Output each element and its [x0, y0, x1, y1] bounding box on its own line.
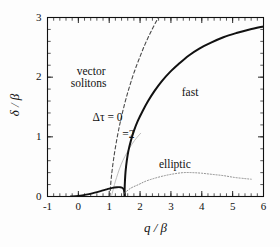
figure-container: -10123456 0123 q / β δ / β vector solito…	[0, 0, 280, 247]
y-axis-title: δ / β	[7, 94, 22, 117]
x-tick-label: 0	[64, 201, 92, 212]
x-axis-major-ticks	[48, 18, 264, 197]
annotation-solitons: solitons	[71, 78, 107, 90]
x-tick-label: 6	[250, 201, 278, 212]
y-axis-title-wrapper: δ / β	[5, 82, 23, 128]
annotation-vector: vector	[77, 66, 106, 78]
y-axis-major-ticks	[48, 18, 264, 197]
annotation-elliptic: elliptic	[159, 159, 191, 171]
y-tick-label: 2	[24, 71, 42, 82]
x-tick-label: 3	[157, 201, 185, 212]
x-tick-label: 1	[95, 201, 123, 212]
y-axis-minor-ticks	[48, 18, 264, 197]
y-tick-label: 1	[24, 131, 42, 142]
plot-frame	[48, 18, 264, 197]
series-elliptic	[125, 173, 252, 193]
x-axis-minor-ticks	[48, 18, 264, 197]
series--0	[110, 18, 159, 197]
y-tick-label: 0	[24, 191, 42, 202]
x-tick-label: 5	[219, 201, 247, 212]
x-tick-label: 4	[188, 201, 216, 212]
annotation-fast: fast	[182, 87, 199, 99]
series-fast	[125, 26, 264, 196]
annotation-delta-tau-0: Δτ = 0	[93, 112, 123, 124]
x-tick-label: -1	[34, 201, 62, 212]
y-tick-label: 3	[24, 12, 42, 23]
x-axis-title: q / β	[132, 221, 180, 234]
annotation-delta-tau-2: =2	[122, 129, 134, 141]
x-tick-label: 2	[126, 201, 154, 212]
